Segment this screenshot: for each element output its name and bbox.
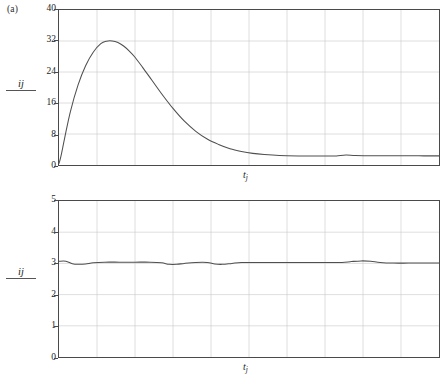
data-curve-top (59, 10, 439, 165)
plot-area-top (58, 9, 440, 166)
y-tick-mark (54, 358, 58, 359)
chart-panel-top: ij 0816243240 tj (0, 0, 447, 194)
y-tick-mark (54, 166, 58, 167)
y-tick-labels-top: 0816243240 (24, 0, 56, 194)
figure-container: (a) ij 0816243240 tj ij 012345 (0, 0, 447, 388)
gridlines-top (59, 10, 439, 165)
data-curve-bottom (59, 201, 439, 357)
series-path-bottom (59, 261, 439, 265)
chart-panel-bottom: ij 012345 tj (0, 194, 447, 388)
x-axis-label-top: tj (243, 169, 248, 182)
x-axis-label-bottom: tj (243, 361, 248, 374)
gridlines-bottom (59, 201, 439, 357)
plot-area-bottom (58, 200, 440, 358)
y-tick-labels-bottom: 012345 (24, 194, 56, 388)
series-path-top (59, 41, 439, 164)
